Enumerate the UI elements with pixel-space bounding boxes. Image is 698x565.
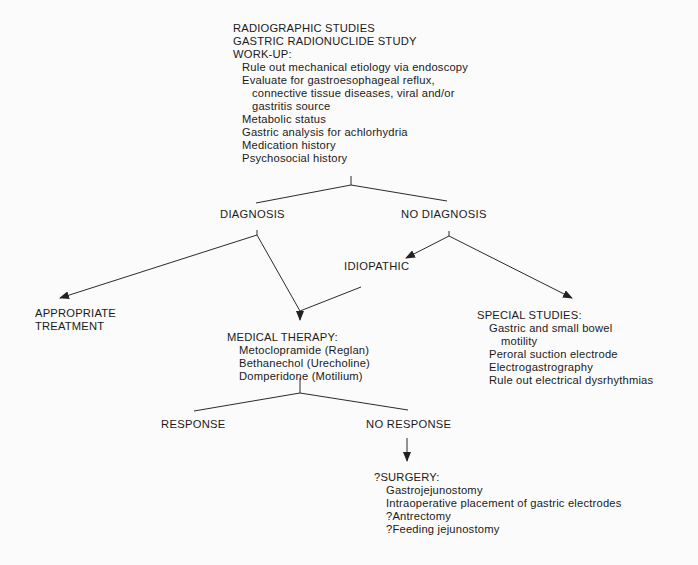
- therapy-item: Domperidone (Motilium): [227, 370, 370, 383]
- line-to-no-diagnosis: [351, 185, 447, 201]
- workup-item: Rule out mechanical etiology via endosco…: [233, 61, 468, 74]
- medical-therapy-box: MEDICAL THERAPY: Metoclopramide (Reglan)…: [227, 331, 370, 383]
- workup-title-2: GASTRIC RADIONUCLIDE STUDY: [233, 35, 468, 48]
- line-to-response: [194, 393, 300, 411]
- workup-item: Medication history: [233, 139, 468, 152]
- line-idiopathic-to-therapy: [300, 287, 361, 311]
- workup-item: gastritis source: [233, 100, 468, 113]
- therapy-item: Bethanechol (Urecholine): [227, 357, 370, 370]
- no-diagnosis-label: NO DIAGNOSIS: [401, 208, 487, 221]
- workup-item: connective tissue diseases, viral and/or: [233, 87, 468, 100]
- therapy-item: Metoclopramide (Reglan): [227, 344, 370, 357]
- surgery-item: ?Antrectomy: [374, 510, 622, 523]
- arrow-to-special-studies: [449, 236, 572, 298]
- idiopathic-label: IDIOPATHIC: [344, 260, 409, 273]
- surgery-item: ?Feeding jejunostomy: [374, 523, 622, 536]
- appropriate-treatment-line-2: TREATMENT: [35, 320, 116, 333]
- surgery-title: ?SURGERY:: [374, 471, 622, 484]
- appropriate-treatment-line-1: APPROPRIATE: [35, 307, 116, 320]
- workup-item: Metabolic status: [233, 113, 468, 126]
- arrow-to-appropriate-treatment: [60, 235, 257, 298]
- line-to-diagnosis: [256, 185, 351, 203]
- medical-therapy-title: MEDICAL THERAPY:: [227, 331, 370, 344]
- special-study-item: Electrogastrography: [477, 361, 653, 374]
- workup-title-1: RADIOGRAPHIC STUDIES: [233, 22, 468, 35]
- special-studies-title: SPECIAL STUDIES:: [477, 309, 653, 322]
- workup-item: Psychosocial history: [233, 152, 468, 165]
- no-response-label: NO RESPONSE: [366, 418, 451, 431]
- special-study-item: Gastric and small bowel: [477, 322, 653, 335]
- workup-title-3: WORK-UP:: [233, 48, 468, 61]
- response-label: RESPONSE: [161, 418, 226, 431]
- diagnosis-label: DIAGNOSIS: [220, 208, 285, 221]
- special-studies-box: SPECIAL STUDIES: Gastric and small bowel…: [477, 309, 653, 387]
- workup-box: RADIOGRAPHIC STUDIES GASTRIC RADIONUCLID…: [233, 22, 468, 165]
- surgery-item: Gastrojejunostomy: [374, 484, 622, 497]
- surgery-box: ?SURGERY: Gastrojejunostomy Intraoperati…: [374, 471, 622, 536]
- workup-item: Gastric analysis for achlorhydria: [233, 126, 468, 139]
- arrow-to-idiopathic: [406, 236, 449, 258]
- special-study-item: Peroral suction electrode: [477, 348, 653, 361]
- workup-item: Evaluate for gastroesophageal reflux,: [233, 74, 468, 87]
- line-to-no-response: [300, 393, 408, 410]
- surgery-item: Intraoperative placement of gastric elec…: [374, 497, 622, 510]
- special-study-item: motility: [477, 335, 653, 348]
- appropriate-treatment-box: APPROPRIATE TREATMENT: [35, 307, 116, 333]
- special-study-item: Rule out electrical dysrhythmias: [477, 374, 653, 387]
